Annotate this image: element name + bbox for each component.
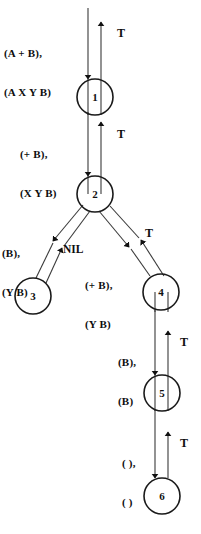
node-1-label: 1	[92, 91, 98, 103]
node-3-label: 3	[30, 290, 36, 302]
edge-label-2-to-3: (B), (Y B)	[2, 221, 28, 325]
node-5-label: 5	[159, 387, 165, 399]
return-label-5-to-4: T	[180, 335, 188, 350]
edge-2-3-down	[53, 205, 83, 241]
node-4-label: 4	[158, 286, 164, 298]
node-5[interactable]: 5	[144, 375, 180, 411]
node-6[interactable]: 6	[144, 478, 180, 514]
node-2[interactable]: 2	[77, 176, 113, 212]
edge-label-2-to-3-line2: (Y B)	[2, 286, 28, 299]
edge-label-2-to-3-line1: (B),	[2, 247, 28, 260]
edge-label-5-to-6-line1: ( ),	[122, 457, 136, 470]
edge-label-1-to-2-line2: (X Y B)	[20, 187, 57, 200]
edge-label-4-to-5-line1: (B),	[118, 356, 136, 369]
edge-label-root-to-1-line2: (A X Y B)	[4, 86, 51, 99]
return-label-1-to-root: T	[117, 26, 125, 41]
node-1[interactable]: 1	[77, 79, 113, 115]
edge-label-2-to-4: (+ B), (Y B)	[85, 253, 113, 357]
edge-label-1-to-2-line1: (+ B),	[20, 148, 57, 161]
edge-2-4-down-tail	[131, 249, 150, 276]
edge-2-4-down	[99, 211, 129, 247]
edge-label-2-to-4-line2: (Y B)	[85, 318, 113, 331]
edge-label-1-to-2: (+ B), (X Y B)	[20, 122, 57, 226]
edge-label-5-to-6: ( ), ( )	[122, 431, 136, 534]
edge-label-root-to-1-line1: (A + B),	[4, 47, 51, 60]
node-4[interactable]: 4	[143, 274, 179, 310]
edge-label-4-to-5: (B), (B)	[118, 330, 136, 434]
return-label-4-to-2: T	[145, 226, 153, 241]
edge-3-2-up-tail	[64, 211, 90, 246]
return-label-3-to-2: NIL	[63, 243, 83, 255]
node-6-label: 6	[159, 490, 165, 502]
edge-label-root-to-1: (A + B), (A X Y B)	[4, 21, 51, 125]
edge-4-2-up-tail	[110, 206, 139, 238]
return-label-2-to-1: T	[117, 127, 125, 142]
node-2-label: 2	[92, 188, 98, 200]
edge-4-2-up	[141, 240, 164, 276]
return-label-6-to-5: T	[180, 436, 188, 451]
diagram-page: 1 2 3 4 5 6 (A + B), (A X Y B) (+ B), (X…	[0, 0, 201, 534]
edge-label-2-to-4-line1: (+ B),	[85, 279, 113, 292]
edge-label-5-to-6-line2: ( )	[122, 496, 136, 509]
edge-label-4-to-5-line2: (B)	[118, 395, 136, 408]
